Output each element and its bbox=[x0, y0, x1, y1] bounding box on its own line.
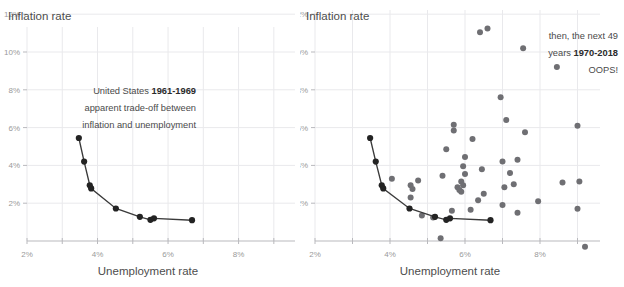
y-tick-label: 6% bbox=[300, 124, 308, 133]
data-point bbox=[485, 25, 491, 31]
left-x-axis-title: Unemployment rate bbox=[98, 265, 198, 277]
data-point bbox=[575, 206, 581, 212]
x-tick-label: 2% bbox=[21, 250, 33, 259]
left-tick-labels: 2%4%6%8%2%4%6%8%10%12% bbox=[4, 10, 244, 259]
data-point bbox=[447, 215, 453, 221]
left-anno-line3: inflation and unemployment bbox=[82, 120, 196, 130]
y-tick-label: 8% bbox=[300, 86, 308, 95]
data-point bbox=[515, 210, 521, 216]
y-tick-label: 2% bbox=[8, 199, 20, 208]
right-anno-line1: then, the next 49 bbox=[549, 31, 618, 41]
data-point bbox=[406, 205, 412, 211]
data-point bbox=[389, 176, 395, 182]
data-point bbox=[500, 202, 506, 208]
data-point bbox=[76, 135, 82, 141]
data-point bbox=[560, 179, 566, 185]
y-tick-label: 4% bbox=[8, 161, 20, 170]
data-point bbox=[582, 244, 588, 250]
x-tick-label: 4% bbox=[384, 250, 396, 259]
svg-text:United States 1961-1969: United States 1961-1969 bbox=[93, 86, 196, 96]
y-tick-label: 6% bbox=[8, 124, 20, 133]
data-point bbox=[501, 184, 507, 190]
data-point bbox=[481, 191, 487, 197]
left-anno-line2: apparent trade-off between bbox=[85, 103, 196, 113]
data-point bbox=[380, 185, 386, 191]
data-point bbox=[137, 214, 143, 220]
data-point bbox=[88, 185, 94, 191]
x-tick-label: 6% bbox=[459, 250, 471, 259]
data-point bbox=[487, 217, 493, 223]
data-point bbox=[113, 205, 119, 211]
left-anno-line1-bold: 1961-1969 bbox=[152, 86, 196, 96]
data-point bbox=[479, 166, 485, 172]
data-point bbox=[458, 189, 464, 195]
data-point bbox=[408, 195, 414, 201]
right-series-1961-1969 bbox=[367, 135, 494, 223]
data-point bbox=[432, 214, 438, 220]
chart-panel-left: 2%4%6%8%2%4%6%8%10%12% Inflation rate Un… bbox=[0, 0, 312, 287]
right-x-axis-title: Unemployment rate bbox=[400, 265, 500, 277]
data-point bbox=[498, 94, 504, 100]
data-point bbox=[462, 171, 468, 177]
y-tick-label: 4% bbox=[300, 161, 308, 170]
x-tick-label: 4% bbox=[92, 250, 104, 259]
right-chart-svg: 2%4%6%8%2%4%6%8%10%12% Inflation rate Un… bbox=[300, 0, 624, 287]
left-y-axis-title: Inflation rate bbox=[8, 10, 71, 22]
data-point bbox=[520, 45, 526, 51]
data-point bbox=[511, 181, 517, 187]
data-point bbox=[81, 159, 87, 165]
svg-text:years 1970-2018: years 1970-2018 bbox=[548, 48, 618, 58]
x-tick-label: 8% bbox=[233, 250, 245, 259]
right-anno-line2-plain: years bbox=[548, 48, 573, 58]
data-point bbox=[462, 154, 468, 160]
data-point bbox=[503, 117, 509, 123]
x-tick-label: 6% bbox=[162, 250, 174, 259]
data-point bbox=[367, 135, 373, 141]
series-line bbox=[79, 138, 192, 220]
left-series-1961-1969 bbox=[76, 135, 195, 223]
data-point bbox=[500, 159, 506, 165]
data-point bbox=[477, 29, 483, 35]
x-tick-label: 2% bbox=[309, 250, 321, 259]
data-point bbox=[151, 215, 157, 221]
data-point bbox=[507, 170, 513, 176]
data-point bbox=[440, 173, 446, 179]
data-point bbox=[522, 129, 528, 135]
data-point bbox=[470, 136, 476, 142]
right-anno-line2-bold: 1970-2018 bbox=[574, 48, 618, 58]
data-point bbox=[415, 178, 421, 184]
y-tick-label: 2% bbox=[300, 199, 308, 208]
right-y-axis-title: Inflation rate bbox=[306, 10, 369, 22]
left-chart-svg: 2%4%6%8%2%4%6%8%10%12% Inflation rate Un… bbox=[0, 0, 312, 287]
data-point bbox=[451, 127, 457, 133]
data-point bbox=[460, 163, 466, 169]
data-point bbox=[576, 178, 582, 184]
left-annotation: United States 1961-1969 apparent trade-o… bbox=[82, 86, 196, 130]
data-point bbox=[438, 235, 444, 241]
data-point bbox=[460, 182, 466, 188]
y-tick-label: 10% bbox=[300, 48, 308, 57]
data-point bbox=[575, 123, 581, 129]
right-gridlines bbox=[315, 10, 600, 241]
data-point bbox=[410, 186, 416, 192]
data-point bbox=[451, 122, 457, 128]
data-point bbox=[189, 217, 195, 223]
right-anno-line3: OOPS! bbox=[589, 65, 618, 75]
data-point bbox=[475, 197, 481, 203]
data-point bbox=[373, 159, 379, 165]
right-tick-labels: 2%4%6%8%2%4%6%8%10%12% bbox=[300, 10, 546, 259]
data-point bbox=[443, 146, 449, 152]
data-point bbox=[449, 208, 455, 214]
left-anno-line1-plain: United States bbox=[93, 86, 151, 96]
data-point bbox=[468, 207, 474, 213]
chart-panel-right: 2%4%6%8%2%4%6%8%10%12% Inflation rate Un… bbox=[300, 0, 624, 287]
data-point bbox=[515, 157, 521, 163]
data-point bbox=[554, 64, 560, 70]
data-point bbox=[535, 198, 541, 204]
y-tick-label: 8% bbox=[8, 86, 20, 95]
x-tick-label: 8% bbox=[534, 250, 546, 259]
y-tick-label: 10% bbox=[4, 48, 20, 57]
